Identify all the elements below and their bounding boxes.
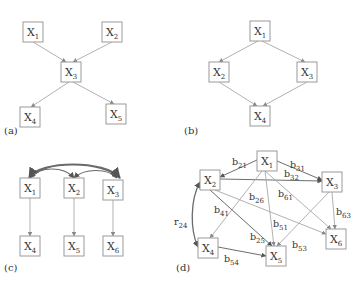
edge-x3-to-x5 [73, 82, 114, 104]
correlation-arcs-layer [29, 165, 200, 248]
arc-label-r24: r24 [174, 216, 188, 230]
node-c-x6: X6 [103, 236, 123, 256]
diagram-canvas: X1X2X3X4X5X1X2X3X4X1X2X3X4X5X6X1X2X3X4X5… [0, 0, 363, 282]
node-d-x5: X5 [266, 246, 286, 266]
edge-label-b51: b51 [273, 218, 288, 232]
node-b-x4: X4 [250, 106, 270, 126]
node-c-x4: X4 [20, 236, 40, 256]
edge-label-b53: b53 [292, 239, 307, 253]
edge-label-b63: b63 [336, 206, 351, 220]
edge-x3-to-x6 [332, 192, 335, 229]
edge-x1-to-x3 [262, 41, 305, 62]
edge-x2-to-x3 [220, 179, 322, 181]
edge-label-b26: b26 [249, 191, 265, 205]
labels-layer: (a)(b)(c)b21b31b32b26b61b41b51b25b53b63b… [4, 125, 351, 273]
node-b-x2: X2 [209, 62, 229, 82]
node-d-x4: X4 [198, 238, 218, 258]
node-c-x5: X5 [64, 236, 84, 256]
edge-label-b21: b21 [232, 156, 247, 170]
node-b-x1: X1 [250, 21, 270, 41]
edge-label-b41: b41 [214, 204, 229, 218]
edge-x2-to-x3 [73, 42, 112, 62]
panel-label-c: (c) [4, 262, 18, 273]
edge-x3-to-x4 [263, 82, 307, 106]
node-d-x6: X6 [326, 229, 346, 249]
node-a-x5: X5 [106, 104, 126, 124]
edge-x2-to-x4 [219, 82, 257, 106]
correlation-arc-x2-x4 [192, 182, 200, 247]
node-d-x2: X2 [200, 170, 220, 190]
edge-label-b61: b61 [278, 188, 293, 202]
edge-label-b31: b31 [290, 159, 305, 173]
node-a-x3: X3 [61, 62, 81, 82]
node-c-x3: X3 [103, 180, 123, 200]
edge-x1-to-x5 [265, 171, 274, 246]
node-d-x3: X3 [322, 172, 342, 192]
panel-label-b: (b) [184, 125, 198, 136]
edge-x1-to-x3 [33, 42, 66, 62]
edge-label-b54: b54 [224, 253, 240, 267]
panel-label-a: (a) [4, 125, 18, 136]
node-c-x1: X1 [20, 178, 40, 198]
edge-x1-to-x2 [219, 41, 258, 62]
node-a-x2: X2 [102, 22, 122, 42]
panel-label-d: (d) [176, 262, 190, 273]
node-c-x2: X2 [64, 178, 84, 198]
edge-x3-to-x4 [31, 82, 69, 107]
node-a-x4: X4 [20, 107, 40, 127]
node-b-x3: X3 [297, 62, 317, 82]
node-a-x1: X1 [23, 22, 43, 42]
node-d-x1: X1 [257, 151, 277, 171]
